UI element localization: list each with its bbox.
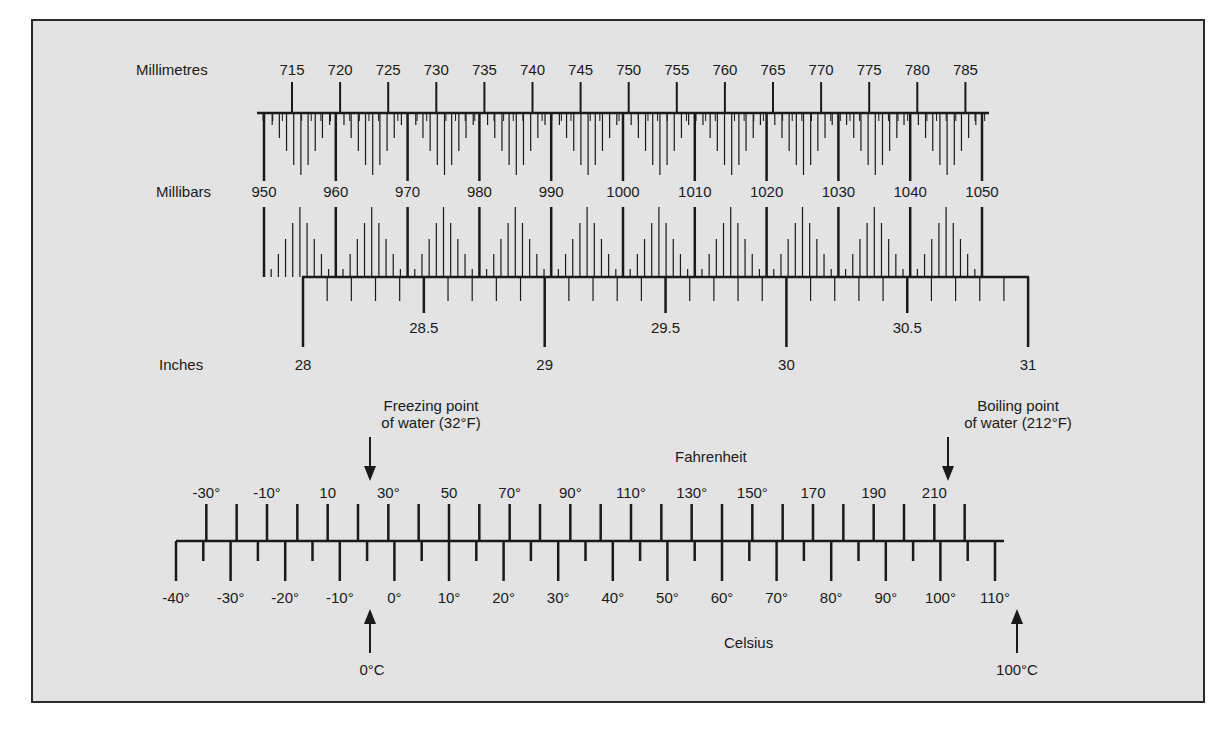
mm-tick-label: 755: [664, 61, 689, 78]
inches-label: Inches: [159, 356, 203, 373]
celsius-tick-label: 20°: [492, 589, 515, 606]
hundred-celsius-label: 100°C: [996, 661, 1038, 678]
celsius-tick-label: 50°: [656, 589, 679, 606]
mm-tick-label: 720: [328, 61, 353, 78]
fahrenheit-label: Fahrenheit: [675, 448, 748, 465]
boiling-point-label-2: of water (212°F): [964, 414, 1072, 431]
zero-celsius-arrow-icon: [364, 609, 376, 653]
celsius-label: Celsius: [724, 634, 773, 651]
inch-half-label: 30.5: [893, 319, 922, 336]
fahrenheit-tick-label: 150°: [737, 484, 768, 501]
celsius-tick-label: 80°: [820, 589, 843, 606]
mm-tick-label: 730: [424, 61, 449, 78]
fahrenheit-tick-label: 170: [800, 484, 825, 501]
fahrenheit-tick-label: 90°: [559, 484, 582, 501]
mb-tick-label: 1020: [750, 183, 783, 200]
celsius-tick-label: -40°: [162, 589, 190, 606]
celsius-tick-label: 60°: [711, 589, 734, 606]
inch-half-label: 29.5: [651, 319, 680, 336]
millibars-label: Millibars: [156, 183, 211, 200]
mb-tick-label: 1030: [822, 183, 855, 200]
mm-tick-label: 750: [616, 61, 641, 78]
celsius-tick-label: 30°: [547, 589, 570, 606]
mb-tick-label: 1000: [606, 183, 639, 200]
hundred-celsius-arrow-icon: [1011, 609, 1023, 653]
mm-tick-label: 780: [905, 61, 930, 78]
boiling-point-label-1: Boiling point: [977, 397, 1060, 414]
mm-tick-label: 765: [760, 61, 785, 78]
mm-tick-label: 770: [809, 61, 834, 78]
mb-tick-label: 980: [467, 183, 492, 200]
temperature-scale: -40°-30°-20°-10°0°10°20°30°40°50°60°70°8…: [162, 484, 1010, 606]
mb-tick-label: 1050: [965, 183, 998, 200]
mb-inches-scale: 9509609709809901000101010201030104010502…: [251, 183, 1036, 373]
boiling-arrow-icon: [942, 437, 954, 481]
mm-tick-label: 725: [376, 61, 401, 78]
freezing-point-label-2: of water (32°F): [381, 414, 480, 431]
millimetres-label: Millimetres: [136, 61, 208, 78]
mm-tick-label: 715: [279, 61, 304, 78]
celsius-tick-label: 70°: [765, 589, 788, 606]
celsius-tick-label: -30°: [217, 589, 245, 606]
mm-tick-label: 775: [857, 61, 882, 78]
fahrenheit-tick-label: 50: [441, 484, 458, 501]
mm-tick-label: 735: [472, 61, 497, 78]
celsius-tick-label: 110°: [980, 589, 1010, 606]
mb-tick-label: 1010: [678, 183, 711, 200]
conversion-scales-diagram: 7157207257307357407457507557607657707757…: [0, 0, 1219, 733]
celsius-tick-label: 0°: [387, 589, 401, 606]
mm-tick-label: 740: [520, 61, 545, 78]
celsius-tick-label: -10°: [326, 589, 354, 606]
fahrenheit-tick-label: 130°: [676, 484, 707, 501]
fahrenheit-tick-label: 10: [319, 484, 336, 501]
mb-tick-label: 970: [395, 183, 420, 200]
celsius-tick-label: 100°: [925, 589, 956, 606]
mb-tick-label: 1040: [894, 183, 927, 200]
freezing-point-label-1: Freezing point: [383, 397, 479, 414]
celsius-tick-label: 90°: [874, 589, 897, 606]
inch-tick-label: 29: [536, 356, 553, 373]
fahrenheit-tick-label: 110°: [616, 484, 646, 501]
mb-tick-label: 960: [323, 183, 348, 200]
freezing-arrow-icon: [364, 437, 376, 481]
celsius-tick-label: 10°: [438, 589, 461, 606]
mb-tick-label: 950: [251, 183, 276, 200]
mb-tick-label: 990: [539, 183, 564, 200]
fahrenheit-tick-label: 70°: [498, 484, 521, 501]
inch-tick-label: 30: [778, 356, 795, 373]
mm-mb-scale: 7157207257307357407457507557607657707757…: [257, 61, 989, 181]
inch-tick-label: 31: [1020, 356, 1037, 373]
celsius-tick-label: 40°: [601, 589, 624, 606]
fahrenheit-tick-label: 30°: [377, 484, 400, 501]
inch-half-label: 28.5: [409, 319, 438, 336]
zero-celsius-label: 0°C: [359, 661, 384, 678]
fahrenheit-tick-label: 190: [861, 484, 886, 501]
fahrenheit-tick-label: 210: [922, 484, 947, 501]
fahrenheit-tick-label: -10°: [253, 484, 281, 501]
mm-tick-label: 760: [712, 61, 737, 78]
inch-tick-label: 28: [295, 356, 312, 373]
fahrenheit-tick-label: -30°: [192, 484, 220, 501]
mm-tick-label: 785: [953, 61, 978, 78]
celsius-tick-label: -20°: [271, 589, 299, 606]
mm-tick-label: 745: [568, 61, 593, 78]
